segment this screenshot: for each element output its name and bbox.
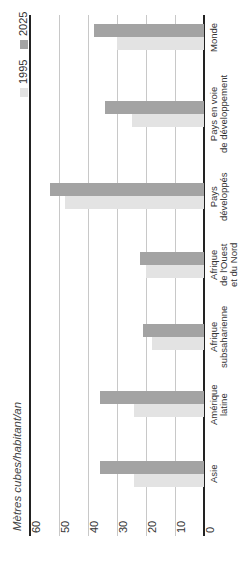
bar-2025 xyxy=(140,252,204,265)
bar-2025 xyxy=(100,391,204,404)
tick-label: 0 xyxy=(205,527,216,533)
tick-label: 60 xyxy=(31,521,42,533)
bar-1995 xyxy=(146,265,204,278)
bar-2025 xyxy=(50,183,204,196)
tick-label: 30 xyxy=(118,521,129,533)
axis-max-line xyxy=(29,15,31,536)
legend-swatch-2025 xyxy=(20,40,28,49)
bar-chart: 0102030405060 Mètres cubes/habitant/an 1… xyxy=(0,0,248,563)
gridline-40 xyxy=(88,15,89,536)
category-label: Monde xyxy=(209,22,219,51)
category-label: Asie xyxy=(209,465,219,483)
category-label: Afriquede l'Ouestet du Nord xyxy=(209,243,239,287)
tick-label: 50 xyxy=(60,521,71,533)
bar-1995 xyxy=(65,196,204,209)
category-label: Afriquesubsaharienne xyxy=(209,306,229,368)
category-label: Paysdéveloppés xyxy=(209,172,229,221)
category-label: Pays en voiede développement xyxy=(209,75,229,153)
tick-label: 20 xyxy=(147,521,158,533)
category-label: Amériquelatine xyxy=(209,384,229,425)
legend-label-1995: 1995 xyxy=(18,60,29,84)
tick-label: 40 xyxy=(89,521,100,533)
bar-1995 xyxy=(152,337,204,350)
bar-1995 xyxy=(132,114,205,127)
legend-swatch-1995 xyxy=(20,88,28,97)
bar-2025 xyxy=(143,324,204,337)
bar-2025 xyxy=(100,461,204,474)
bar-1995 xyxy=(117,37,204,50)
bar-2025 xyxy=(94,24,204,37)
bar-1995 xyxy=(134,474,204,487)
gridline-50 xyxy=(59,15,60,536)
gridline-30 xyxy=(117,15,118,536)
axis-title: Mètres cubes/habitant/an xyxy=(12,402,23,531)
tick-label: 10 xyxy=(176,521,187,533)
bar-1995 xyxy=(134,404,204,417)
legend-label-2025: 2025 xyxy=(18,12,29,36)
bar-2025 xyxy=(105,101,204,114)
